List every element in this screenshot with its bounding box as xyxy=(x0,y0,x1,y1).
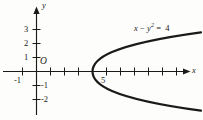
y-tick-label-3: 3 xyxy=(24,25,28,34)
equation-x-term: x xyxy=(134,23,138,33)
coordinate-plot xyxy=(0,0,203,120)
x-tick-label-minus-1: -1 xyxy=(14,76,21,85)
y-tick-label-2: 2 xyxy=(24,39,28,48)
equation-exponent: 2 xyxy=(151,22,154,28)
y-tick-label-minus-1: -1 xyxy=(41,81,48,90)
equation-minus-sign: − xyxy=(140,23,145,33)
equation-rhs: 4 xyxy=(165,23,169,33)
y-tick-label-minus-2: -2 xyxy=(41,95,48,104)
equation-annotation: x−y2=4 xyxy=(134,22,172,32)
x-axis-arrowhead xyxy=(183,68,191,74)
x-axis-label: x xyxy=(192,66,196,75)
origin-label: O xyxy=(40,57,47,67)
y-axis-arrowhead xyxy=(33,7,39,15)
y-tick-label-1: 1 xyxy=(24,53,28,62)
y-axis xyxy=(33,7,39,116)
y-axis-label: y xyxy=(42,1,46,10)
equation-equals-sign: = xyxy=(156,23,161,33)
graph-figure: y x O 3 2 1 -1 -2 -1 5 x−y2=4 xyxy=(0,0,203,120)
x-tick-label-5: 5 xyxy=(101,76,105,85)
